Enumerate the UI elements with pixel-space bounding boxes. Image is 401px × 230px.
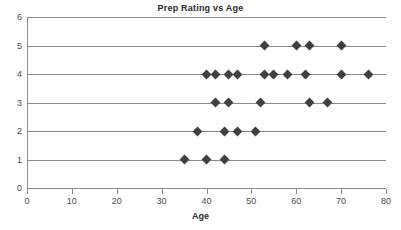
data-point — [336, 41, 346, 51]
data-point — [336, 69, 346, 79]
data-point — [193, 126, 203, 136]
y-tick-label: 2 — [4, 127, 22, 136]
x-tick-label: 50 — [239, 197, 263, 206]
chart-title: Prep Rating vs Age — [0, 3, 401, 13]
x-tick-label: 40 — [195, 197, 219, 206]
x-tick-label: 20 — [105, 197, 129, 206]
x-tick-label: 70 — [329, 197, 353, 206]
x-tick-label: 30 — [150, 197, 174, 206]
data-point — [300, 69, 310, 79]
x-tick — [296, 189, 297, 194]
y-tick-label: 5 — [4, 42, 22, 51]
data-point — [251, 126, 261, 136]
data-point — [269, 69, 279, 79]
x-tick — [117, 189, 118, 194]
data-point — [179, 155, 189, 165]
scatter-chart: Prep Rating vs Age 0123456 0102030405060… — [0, 0, 401, 230]
x-tick — [341, 189, 342, 194]
gridline — [27, 131, 386, 132]
x-tick-label: 10 — [60, 197, 84, 206]
y-tick-label: 6 — [4, 13, 22, 22]
x-tick-label: 80 — [374, 197, 398, 206]
data-point — [211, 69, 221, 79]
y-tick-label: 4 — [4, 70, 22, 79]
data-point — [363, 69, 373, 79]
data-point — [260, 41, 270, 51]
gridline — [27, 17, 386, 18]
x-axis-title: Age — [0, 211, 401, 221]
data-point — [211, 98, 221, 108]
x-tick — [386, 189, 387, 194]
data-point — [255, 98, 265, 108]
data-point — [233, 126, 243, 136]
gridline — [27, 46, 386, 47]
y-tick-label: 0 — [4, 184, 22, 193]
x-tick — [162, 189, 163, 194]
data-point — [219, 126, 229, 136]
x-tick-label: 60 — [284, 197, 308, 206]
data-point — [219, 155, 229, 165]
data-point — [305, 41, 315, 51]
data-point — [323, 98, 333, 108]
plot-area — [27, 17, 386, 188]
x-tick — [27, 189, 28, 194]
x-tick — [251, 189, 252, 194]
x-tick — [207, 189, 208, 194]
data-point — [202, 155, 212, 165]
data-point — [291, 41, 301, 51]
x-tick — [72, 189, 73, 194]
x-tick-label: 0 — [15, 197, 39, 206]
data-point — [224, 98, 234, 108]
y-tick-label: 3 — [4, 99, 22, 108]
data-point — [233, 69, 243, 79]
y-tick-label: 1 — [4, 156, 22, 165]
data-point — [305, 98, 315, 108]
data-point — [282, 69, 292, 79]
